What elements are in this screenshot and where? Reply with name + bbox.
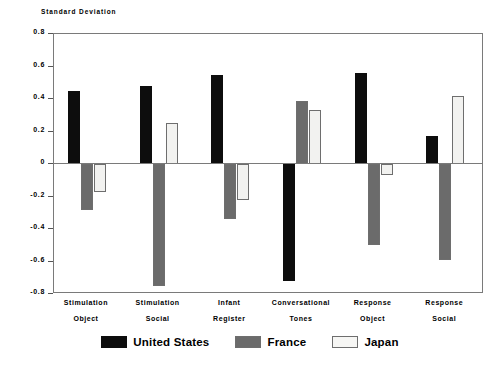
bar-chart: Standard Deviation 0.80.60.40.20-0.2-0.4…	[0, 0, 500, 365]
bar-fr-0	[81, 164, 93, 210]
y-axis-tick: 0.8	[0, 33, 53, 34]
zero-baseline	[53, 163, 483, 164]
y-axis-tick-label: 0.4	[33, 93, 45, 100]
bar-fr-4	[368, 164, 380, 245]
y-axis-tick-mark	[48, 293, 53, 294]
legend-item-jp: Japan	[332, 336, 398, 348]
y-axis-tick-label: -0.2	[30, 191, 45, 198]
x-axis-category-5: ResponseSocial	[399, 299, 489, 322]
y-axis-tick-label: -0.8	[30, 288, 45, 295]
bar-jp-2	[237, 164, 249, 200]
y-axis-tick-label: 0.8	[33, 28, 45, 35]
legend-item-us: United States	[101, 336, 209, 348]
legend-item-fr: France	[235, 336, 306, 348]
y-axis-title: Standard Deviation	[41, 8, 116, 15]
bar-fr-2	[224, 164, 236, 219]
x-axis-category-line2: Social	[399, 315, 489, 322]
y-axis-tick: 0.2	[0, 131, 53, 132]
y-axis-tick: 0	[0, 163, 53, 164]
legend-label: United States	[133, 336, 209, 348]
bar-jp-3	[309, 110, 321, 164]
bar-fr-1	[153, 164, 165, 286]
bar-us-3	[283, 164, 295, 281]
bar-us-4	[355, 73, 367, 164]
y-axis-tick-label: 0	[40, 158, 45, 165]
legend-swatch-fr-icon	[235, 336, 261, 348]
y-axis-tick-label: -0.6	[30, 256, 45, 263]
y-axis-tick: 0.4	[0, 98, 53, 99]
bar-us-0	[68, 91, 80, 164]
legend-label: France	[267, 336, 306, 348]
y-axis-tick: -0.2	[0, 196, 53, 197]
bar-fr-3	[296, 101, 308, 164]
legend-swatch-jp-icon	[332, 336, 358, 348]
y-axis-tick: 0.6	[0, 66, 53, 67]
bar-jp-0	[94, 164, 106, 192]
y-axis-tick: -0.4	[0, 228, 53, 229]
bar-jp-4	[381, 164, 393, 175]
bar-fr-5	[439, 164, 451, 260]
bar-jp-1	[166, 123, 178, 164]
bar-us-2	[211, 75, 223, 164]
legend-swatch-us-icon	[101, 336, 127, 348]
y-axis-tick: -0.8	[0, 293, 53, 294]
bar-us-1	[140, 86, 152, 164]
y-axis-tick-label: 0.6	[33, 61, 45, 68]
legend-label: Japan	[364, 336, 398, 348]
y-axis-tick: -0.6	[0, 261, 53, 262]
y-axis-tick-label: -0.4	[30, 223, 45, 230]
x-axis-category-line1: Response	[399, 299, 489, 306]
y-axis-tick-label: 0.2	[33, 126, 45, 133]
bar-jp-5	[452, 96, 464, 164]
bar-us-5	[426, 136, 438, 164]
chart-legend: United StatesFranceJapan	[0, 336, 500, 348]
